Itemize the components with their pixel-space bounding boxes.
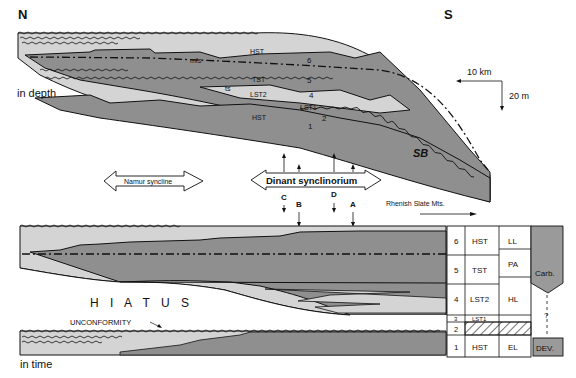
period-column: Carb. ? DEV. (531, 226, 563, 356)
tract-hst-lower: HST (252, 114, 267, 121)
mfs-label: mfs (190, 57, 202, 64)
arrow-down-icon (500, 106, 504, 111)
table-tract-5: TST (472, 266, 487, 275)
table-stage-4: HL (508, 295, 519, 304)
sequence-stratigraphy-diagram: N S in depth HST TST LST2 LST1 HST mfs t… (0, 0, 576, 378)
in-time-label: in time (20, 358, 52, 370)
unit-1-label: 1 (308, 122, 313, 131)
unit-5-label: 5 (307, 76, 312, 85)
hatched-gap-cell (465, 322, 531, 335)
sb-label: SB (413, 147, 428, 159)
table-stage-6: LL (508, 237, 517, 246)
uncertain-label: ? (544, 311, 549, 320)
unit-4-label: 4 (309, 91, 314, 100)
south-label: S (444, 7, 453, 22)
tract-lst1: LST1 (300, 104, 317, 111)
table-tract-6: HST (472, 237, 488, 246)
time-chart (20, 225, 446, 355)
arrow-right-icon (470, 212, 477, 216)
unit-6-label: 6 (307, 56, 312, 65)
tract-lst2: LST2 (250, 91, 267, 98)
table-stage-1: EL (508, 343, 518, 352)
north-label: N (18, 7, 27, 22)
carb-label: Carb. (535, 269, 555, 278)
namur-syncline-label: Namur syncline (124, 178, 172, 186)
ts-label: ts (225, 85, 231, 92)
section-c-label: C (281, 193, 287, 202)
table-tract-3: LST1 (472, 316, 487, 322)
table-unit-4: 4 (454, 295, 459, 304)
table-unit-6: 6 (454, 237, 459, 246)
unit-2-label: 2 (322, 114, 327, 123)
section-markers: C B D A (281, 153, 356, 227)
dev-label: DEV. (536, 344, 554, 353)
table-unit-1: 1 (454, 343, 459, 352)
tract-hst-upper: HST (250, 48, 265, 55)
table-tract-4: LST2 (470, 295, 490, 304)
scale-bar: 10 km 20 m (456, 67, 529, 111)
arrow-left-icon (456, 79, 461, 83)
unconformity-label: UNCONFORMITY (70, 318, 131, 327)
tract-tst: TST (252, 76, 266, 83)
dinant-synclinorium-label: Dinant synclinorium (266, 175, 357, 186)
table-stage-5: PA (508, 260, 519, 269)
stratigraphic-table: 6 HST LL 5 TST PA 4 LST2 HL 3 LST1 2 1 H… (447, 226, 531, 357)
scale-vertical-label: 20 m (509, 91, 529, 101)
section-b-label: B (296, 200, 302, 209)
dinant-synclinorium-arrow: Dinant synclinorium (251, 170, 381, 190)
table-tract-1: HST (472, 343, 488, 352)
carboniferous-block (531, 226, 563, 293)
rhenish-slate-label: Rhenish Slate Mts. (386, 200, 445, 207)
section-a-label: A (350, 200, 356, 209)
table-unit-2: 2 (454, 325, 458, 334)
hiatus-label: H I A T U S (90, 296, 193, 310)
section-d-label: D (331, 190, 337, 199)
namur-syncline-arrow: Namur syncline (104, 171, 203, 191)
table-unit-5: 5 (454, 266, 459, 275)
scale-horizontal-label: 10 km (467, 67, 492, 77)
in-depth-label: in depth (17, 87, 56, 99)
